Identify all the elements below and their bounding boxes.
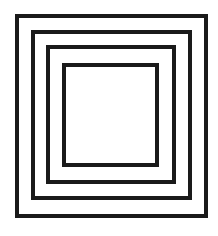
nested-squares-diagram	[0, 0, 218, 236]
second-square	[33, 32, 190, 198]
inner-square	[64, 65, 157, 165]
